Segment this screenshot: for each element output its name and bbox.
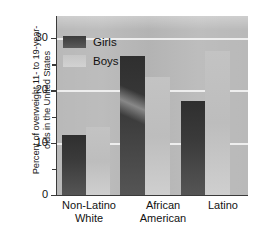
y-tick-20	[51, 90, 56, 91]
legend-item-girls: Girls	[63, 33, 119, 50]
legend-label-boys: Boys	[93, 55, 119, 67]
x-category-label-non-latino-white: Non-Latino White	[46, 199, 132, 224]
legend-label-girls: Girls	[93, 36, 117, 48]
y-tick-label-10: 10	[24, 137, 48, 148]
legend-swatch-girls-icon	[63, 36, 86, 48]
bar-boys-african-american	[145, 77, 170, 195]
legend-item-boys: Boys	[63, 52, 119, 69]
x-category-label-latino-line1: Latino	[208, 199, 238, 211]
scan-streak-artifact	[120, 56, 145, 156]
y-tick-0	[51, 195, 56, 196]
bar-boys-latino	[205, 51, 230, 195]
plot-top-fade	[57, 16, 248, 30]
bar-girls-african-american	[120, 56, 145, 195]
y-axis-line	[56, 16, 57, 196]
y-tick-30	[51, 38, 56, 39]
x-category-label-african-american: African American	[124, 199, 202, 224]
chart-figure: Percent of overweight 11- to 19-year- ol…	[0, 0, 254, 240]
y-axis-title: Percent of overweight 11- to 19-year- ol…	[0, 0, 36, 200]
bar-girls-non-latino-white	[62, 135, 86, 195]
legend-swatch-boys-icon	[63, 55, 86, 67]
y-tick-minor-25	[52, 64, 56, 65]
y-axis-title-line1: Percent of overweight 11- to 19-year-	[30, 26, 41, 175]
y-tick-label-20: 20	[24, 84, 48, 95]
x-category-label-african-american-line1: African	[146, 199, 180, 211]
legend: Girls Boys	[63, 33, 119, 71]
bar-boys-non-latino-white	[86, 127, 110, 195]
y-tick-10	[51, 143, 56, 144]
y-tick-minor-15	[52, 117, 56, 118]
x-axis-line	[56, 195, 248, 196]
y-tick-label-30: 30	[24, 32, 48, 43]
x-category-label-non-latino-white-line1: Non-Latino	[62, 199, 116, 211]
bar-girls-latino	[181, 101, 205, 195]
y-tick-minor-5	[52, 169, 56, 170]
y-tick-label-0: 0	[24, 189, 48, 200]
x-category-label-african-american-line2: American	[124, 212, 202, 225]
x-category-label-non-latino-white-line2: White	[46, 212, 132, 225]
x-category-label-latino: Latino	[192, 199, 254, 212]
